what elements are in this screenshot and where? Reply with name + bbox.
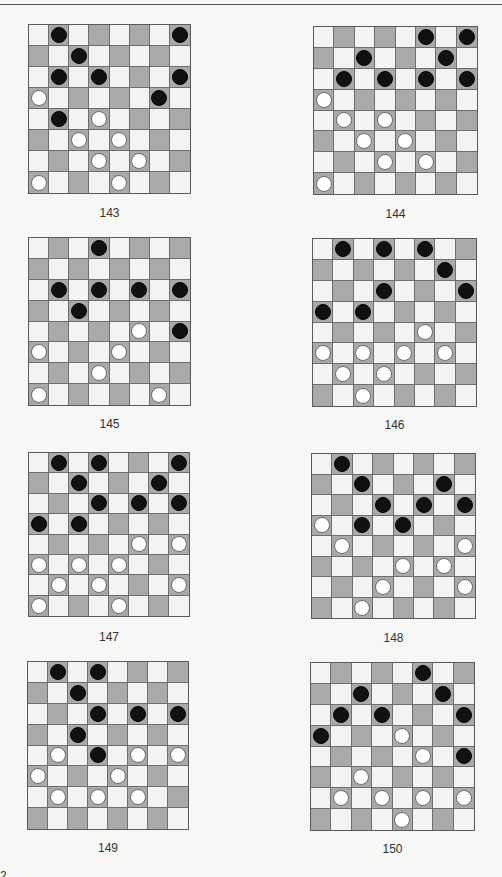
board-square	[313, 323, 333, 344]
checkers-board	[313, 26, 478, 195]
board-square	[374, 281, 394, 302]
board-square	[414, 454, 434, 475]
diagram-label: 145	[28, 417, 191, 431]
black-checker-icon	[334, 456, 350, 472]
board-square	[414, 536, 434, 557]
board-square	[170, 238, 190, 259]
board-square	[374, 343, 394, 364]
white-checker-icon	[316, 92, 332, 108]
board-square	[110, 238, 130, 259]
board-square	[373, 495, 393, 516]
board-square	[109, 575, 129, 595]
white-checker-icon	[91, 577, 107, 593]
board-square	[354, 260, 374, 281]
board-square	[49, 494, 69, 514]
black-checker-icon	[91, 455, 107, 471]
board-square	[150, 342, 170, 363]
board-square	[48, 725, 68, 746]
board-square	[455, 557, 475, 578]
board-square	[69, 596, 89, 616]
black-checker-icon	[376, 283, 392, 299]
board-square	[88, 746, 108, 767]
board-square	[149, 575, 169, 595]
board-square	[49, 238, 69, 259]
board-square	[372, 705, 392, 726]
board-square	[29, 384, 49, 405]
board-square	[312, 454, 332, 475]
board-square	[372, 684, 392, 705]
white-checker-icon	[415, 748, 431, 764]
board-square	[312, 598, 332, 619]
black-checker-icon	[172, 69, 188, 85]
board-square	[108, 808, 128, 829]
board-square	[89, 384, 109, 405]
board-square	[110, 25, 130, 46]
board-square	[355, 90, 375, 111]
black-checker-icon	[438, 50, 454, 66]
board-square	[312, 557, 332, 578]
board-square	[433, 809, 453, 830]
board-square	[372, 809, 392, 830]
board-square	[169, 494, 189, 514]
board-square	[170, 363, 190, 384]
board-square	[435, 281, 455, 302]
board-square	[311, 726, 331, 747]
board-square	[353, 454, 373, 475]
white-checker-icon	[355, 345, 371, 361]
board-square	[311, 663, 331, 684]
board-square	[128, 808, 148, 829]
white-checker-icon	[171, 577, 187, 593]
board-square	[129, 535, 149, 555]
board-square	[331, 726, 351, 747]
board-square	[312, 516, 332, 537]
board-square	[170, 46, 190, 67]
black-checker-icon	[91, 495, 107, 511]
board-square	[49, 384, 69, 405]
white-checker-icon	[315, 345, 331, 361]
board-square	[89, 363, 109, 384]
board-square	[313, 260, 333, 281]
board-square	[396, 152, 416, 173]
board-square	[29, 172, 49, 193]
board-square	[414, 516, 434, 537]
board-square	[88, 725, 108, 746]
board-square	[130, 25, 150, 46]
board-square	[49, 46, 69, 67]
board-square	[394, 577, 414, 598]
board-square	[416, 152, 436, 173]
board-square	[373, 454, 393, 475]
board-square	[455, 536, 475, 557]
board-square	[434, 516, 454, 537]
black-checker-icon	[416, 497, 432, 513]
board-square	[332, 557, 352, 578]
board-square	[372, 767, 392, 788]
board-square	[396, 48, 416, 69]
board-square	[150, 259, 170, 280]
board-square	[413, 684, 433, 705]
board-square	[457, 111, 477, 132]
board-square	[395, 239, 415, 260]
board-square	[148, 746, 168, 767]
board-square	[29, 494, 49, 514]
board-square	[455, 598, 475, 619]
board-square	[110, 151, 130, 172]
black-checker-icon	[130, 706, 146, 722]
board-square	[436, 48, 456, 69]
board-square	[456, 281, 476, 302]
board-square	[457, 131, 477, 152]
black-checker-icon	[459, 71, 475, 87]
board-square	[110, 301, 130, 322]
board-square	[353, 475, 373, 496]
board-square	[49, 596, 69, 616]
board-square	[415, 364, 435, 385]
board-square	[29, 535, 49, 555]
board-square	[457, 152, 477, 173]
white-checker-icon	[394, 728, 410, 744]
board-square	[436, 69, 456, 90]
board-square	[331, 747, 351, 768]
board-square	[169, 453, 189, 473]
board-square	[311, 788, 331, 809]
board-square	[454, 705, 474, 726]
board-square	[333, 364, 353, 385]
board-square	[148, 725, 168, 746]
